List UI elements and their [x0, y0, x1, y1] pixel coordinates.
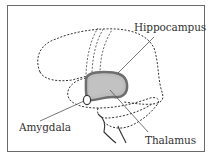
hippocampus-leader — [118, 37, 154, 73]
amygdala-label: Amygdala — [19, 121, 71, 133]
thalamus-label: Thalamus — [145, 134, 196, 146]
sulcus-line-3 — [100, 30, 112, 74]
brainstem-line-right — [118, 126, 126, 143]
hippocampus-label: Hippocampus — [134, 21, 206, 33]
amygdala-leader — [40, 101, 84, 121]
amygdala-shape — [83, 95, 90, 104]
thalamus-leader — [110, 90, 148, 132]
